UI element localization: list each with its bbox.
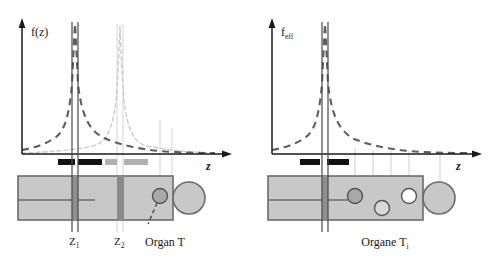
right-y-axis-arrowhead [269, 18, 276, 28]
left-tick-label-z2: Z2 [114, 235, 125, 250]
left-bar-gray-left [105, 159, 117, 165]
right-bar-black-left [300, 159, 320, 165]
left-y-axis-label: f(z) [31, 25, 48, 39]
right-body-slab [322, 176, 328, 220]
left-bar-black-right [78, 159, 102, 165]
left-panel: f(z) z Z1 [18, 18, 232, 250]
left-bar-gray-right [124, 159, 148, 165]
diagram-svg: f(z) z Z1 [0, 0, 501, 256]
right-body-torso [268, 176, 423, 220]
right-x-axis-arrowhead [472, 151, 482, 158]
left-organ-label: Organ T [145, 235, 186, 249]
left-organ-t-circle [153, 189, 168, 204]
right-organ-circle-3 [402, 189, 417, 204]
left-x-axis-arrowhead [222, 151, 232, 158]
right-body-head [423, 182, 455, 214]
left-tick-label-z1: Z1 [69, 235, 80, 250]
curve-source-z1 [22, 24, 215, 153]
curve-source-z2 [22, 26, 215, 153]
right-bar-black-right [327, 159, 349, 165]
left-x-axis-label: z [205, 159, 211, 173]
left-body-torso [18, 176, 173, 220]
right-x-axis-label: z [455, 159, 461, 173]
figure-root: f(z) z Z1 [0, 0, 501, 256]
right-organ-circle-2 [375, 201, 390, 216]
right-organ-label: Organe Ti [361, 235, 408, 251]
left-body-slab-z1 [72, 176, 78, 220]
curve-effective-source [272, 24, 470, 153]
left-body-head [173, 182, 205, 214]
right-y-axis-label: feff [281, 25, 294, 41]
right-organ-circle-1 [348, 189, 363, 204]
left-body-slab-z2 [117, 176, 124, 220]
left-y-axis-arrowhead [19, 18, 26, 28]
right-panel: feff z Organe Ti [268, 18, 482, 251]
